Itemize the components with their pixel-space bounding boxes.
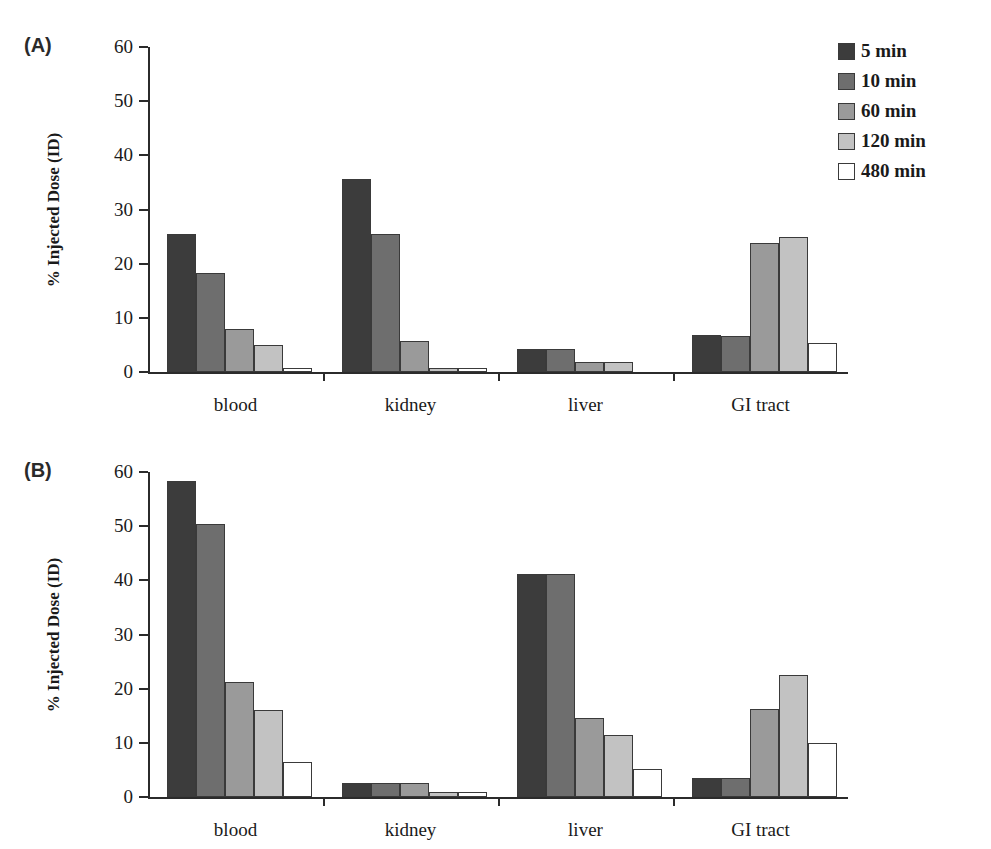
legend-swatch-icon: [838, 73, 855, 90]
bar: [517, 349, 546, 372]
bar: [604, 735, 633, 797]
bar: [779, 237, 808, 372]
bar: [371, 234, 400, 372]
y-axis-tick-label: 50: [114, 515, 133, 537]
bar: [575, 718, 604, 797]
bar: [342, 783, 371, 797]
bar: [779, 675, 808, 797]
x-axis-tick: [323, 797, 325, 806]
y-axis-tick-label: 60: [114, 36, 133, 58]
bar: [254, 345, 283, 372]
legend-item[interactable]: 60 min: [838, 96, 926, 126]
bar: [808, 343, 837, 372]
legend-item-label: 10 min: [861, 70, 916, 92]
y-axis-tick-label: 40: [114, 569, 133, 591]
bar: [721, 778, 750, 797]
bar: [429, 792, 458, 797]
bar: [692, 335, 721, 372]
bar: [633, 769, 662, 797]
legend-item-label: 5 min: [861, 40, 907, 62]
y-axis-tick-label: 0: [124, 786, 134, 808]
bar: [196, 273, 225, 372]
bar: [371, 783, 400, 797]
y-axis-tick: 30: [139, 209, 148, 211]
y-axis-tick: 40: [139, 579, 148, 581]
bar: [808, 743, 837, 797]
x-axis-category-label: liver: [498, 819, 673, 841]
x-axis-tick: [323, 372, 325, 381]
y-axis-tick-label: 20: [114, 678, 133, 700]
y-axis-tick: 50: [139, 525, 148, 527]
y-axis-tick: 10: [139, 317, 148, 319]
y-axis-tick-label: 50: [114, 90, 133, 112]
bar: [750, 709, 779, 797]
bar: [546, 574, 575, 797]
bar: [342, 179, 371, 372]
y-axis-tick-label: 30: [114, 624, 133, 646]
x-axis-category-label: kidney: [323, 394, 498, 416]
x-axis-tick: [498, 797, 500, 806]
x-axis-tick: [673, 797, 675, 806]
legend-swatch-icon: [838, 163, 855, 180]
x-axis-tick: [673, 372, 675, 381]
panel-b-label: (B): [24, 459, 52, 482]
y-axis-tick-label: 20: [114, 253, 133, 275]
bar: [517, 574, 546, 797]
panel-a-y-axis-title: % Injected Dose (ID): [44, 60, 64, 360]
bar: [254, 710, 283, 797]
x-axis-category-label: liver: [498, 394, 673, 416]
bar: [429, 368, 458, 372]
bar: [167, 481, 196, 797]
y-axis-tick-label: 10: [114, 732, 133, 754]
bar: [283, 762, 312, 797]
y-axis-tick: 40: [139, 154, 148, 156]
y-axis-tick-label: 10: [114, 307, 133, 329]
legend-item[interactable]: 5 min: [838, 36, 926, 66]
legend-item-label: 60 min: [861, 100, 916, 122]
bar: [283, 368, 312, 372]
bar: [225, 682, 254, 797]
x-axis-tick: [498, 372, 500, 381]
legend-item[interactable]: 480 min: [838, 156, 926, 186]
bar: [196, 524, 225, 797]
y-axis-tick: 20: [139, 263, 148, 265]
x-axis-category-label: blood: [148, 819, 323, 841]
y-axis-tick: 0: [139, 796, 148, 798]
bar: [750, 243, 779, 372]
legend-swatch-icon: [838, 133, 855, 150]
y-axis-tick: 50: [139, 100, 148, 102]
y-axis-tick: 10: [139, 742, 148, 744]
legend-item-label: 120 min: [861, 130, 926, 152]
bar: [458, 792, 487, 797]
panel-a-legend: 5 min10 min60 min120 min480 min: [838, 36, 926, 186]
legend-item[interactable]: 120 min: [838, 126, 926, 156]
panel-b: (B) % Injected Dose (ID) 0102030405060bl…: [0, 425, 991, 849]
x-axis-category-label: GI tract: [673, 819, 848, 841]
y-axis-tick: 0: [139, 371, 148, 373]
bar: [721, 336, 750, 372]
legend-item-label: 480 min: [861, 160, 926, 182]
y-axis-tick: 20: [139, 688, 148, 690]
panel-a-plot-area: 0102030405060bloodkidneyliverGI tract: [148, 47, 848, 372]
y-axis-tick-label: 60: [114, 461, 133, 483]
y-axis-tick-label: 0: [124, 361, 134, 383]
y-axis-tick-label: 40: [114, 144, 133, 166]
legend-swatch-icon: [838, 103, 855, 120]
y-axis-tick: 30: [139, 634, 148, 636]
bar: [575, 362, 604, 372]
bar: [546, 349, 575, 372]
panel-b-plot-area: 0102030405060bloodkidneyliverGI tract: [148, 472, 848, 797]
x-axis-category-label: blood: [148, 394, 323, 416]
bar: [167, 234, 196, 372]
panel-b-y-axis-line: [148, 472, 150, 797]
panel-b-y-axis-title: % Injected Dose (ID): [44, 485, 64, 785]
bar: [604, 362, 633, 372]
y-axis-tick-label: 30: [114, 199, 133, 221]
x-axis-category-label: GI tract: [673, 394, 848, 416]
legend-swatch-icon: [838, 43, 855, 60]
legend-item[interactable]: 10 min: [838, 66, 926, 96]
bar: [692, 778, 721, 797]
y-axis-tick: 60: [139, 46, 148, 48]
panel-a-y-axis-line: [148, 47, 150, 372]
panel-a-label: (A): [24, 34, 52, 57]
